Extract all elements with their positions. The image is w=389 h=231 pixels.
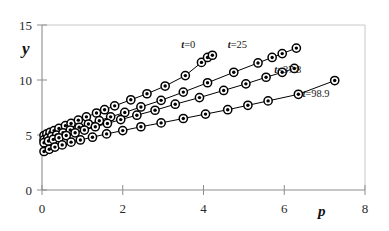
y-tick-label: 15 <box>19 18 32 33</box>
data-point-center-dot <box>244 82 247 85</box>
data-point-center-dot <box>159 121 162 124</box>
y-axis-title: y <box>20 39 30 58</box>
data-point-center-dot <box>182 90 185 93</box>
plot-axes <box>42 25 365 190</box>
data-series <box>40 44 301 144</box>
data-point-center-dot <box>200 61 203 64</box>
data-point-center-dot <box>139 105 142 108</box>
data-point-center-dot <box>85 115 88 118</box>
data-point-center-dot <box>246 104 249 107</box>
data-point-center-dot <box>87 122 90 125</box>
data-point-center-dot <box>60 143 63 146</box>
data-point-center-dot <box>135 114 138 117</box>
data-point-center-dot <box>184 74 187 77</box>
series-label: t=98.9 <box>302 88 329 99</box>
y-tick-label: 10 <box>19 73 32 88</box>
data-point-center-dot <box>206 81 209 84</box>
data-point-center-dot <box>163 84 166 87</box>
data-point-center-dot <box>69 122 72 125</box>
data-point-center-dot <box>129 98 132 101</box>
data-point-center-dot <box>121 129 124 132</box>
data-point-center-dot <box>94 125 97 128</box>
data-point-center-dot <box>297 93 300 96</box>
data-point-center-dot <box>222 89 225 92</box>
data-point-center-dot <box>65 134 68 137</box>
data-point-center-dot <box>103 108 106 111</box>
data-point-center-dot <box>153 109 156 112</box>
series-label-value: =0 <box>184 39 195 50</box>
series-label: t=37.8 <box>274 64 301 75</box>
series-label-value: =25 <box>231 39 247 50</box>
x-tick-label: 2 <box>120 201 127 216</box>
y-tick-label: 5 <box>26 128 33 143</box>
data-point-center-dot <box>198 96 201 99</box>
data-point-center-dot <box>145 92 148 95</box>
series-label: t=25 <box>228 39 247 50</box>
data-point-center-dot <box>333 79 336 82</box>
data-point-center-dot <box>77 118 80 121</box>
x-tick-label: 8 <box>362 201 369 216</box>
data-point-center-dot <box>270 56 273 59</box>
data-point-center-dot <box>83 128 86 131</box>
data-point-center-dot <box>211 54 214 57</box>
series-layer <box>40 44 339 156</box>
data-point-center-dot <box>95 111 98 114</box>
data-point-center-dot <box>91 136 94 139</box>
data-point-center-dot <box>204 112 207 115</box>
data-point-center-dot <box>98 119 101 122</box>
data-point-center-dot <box>266 99 269 102</box>
data-point-center-dot <box>226 108 229 111</box>
data-point-center-dot <box>139 125 142 128</box>
data-point-center-dot <box>232 71 235 74</box>
data-series <box>40 64 299 146</box>
data-point-center-dot <box>79 138 82 141</box>
data-point-center-dot <box>256 61 259 64</box>
data-point-center-dot <box>69 140 72 143</box>
x-axis-title: p <box>316 203 326 219</box>
x-tick-label: 0 <box>39 201 46 216</box>
series-label: t=0 <box>181 39 195 50</box>
data-point-center-dot <box>106 122 109 125</box>
data-point-center-dot <box>281 52 284 55</box>
data-point-center-dot <box>182 117 185 120</box>
data-point-center-dot <box>53 145 56 148</box>
x-tick-label: 4 <box>200 201 207 216</box>
series-label-value: =98.9 <box>305 88 329 99</box>
data-point-center-dot <box>109 115 112 118</box>
y-tick-label: 0 <box>26 183 33 198</box>
chart-figure: 051015 02468 y p t=0t=25t=37.8t=98.9 <box>0 0 389 231</box>
data-point-center-dot <box>57 136 60 139</box>
data-point-center-dot <box>159 99 162 102</box>
data-point-center-dot <box>123 111 126 114</box>
data-point-center-dot <box>113 104 116 107</box>
data-point-center-dot <box>119 118 122 121</box>
series-label-value: =37.8 <box>277 64 301 75</box>
data-point-center-dot <box>105 132 108 135</box>
plot-frame <box>42 25 365 190</box>
data-point-center-dot <box>174 103 177 106</box>
scatter-plot: 051015 02468 y p t=0t=25t=37.8t=98.9 <box>0 0 389 231</box>
x-tick-label: 6 <box>281 201 288 216</box>
data-point-center-dot <box>264 76 267 79</box>
data-point-center-dot <box>73 131 76 134</box>
series-annotations: t=0t=25t=37.8t=98.9 <box>181 39 329 99</box>
data-series <box>40 51 217 139</box>
data-point-center-dot <box>295 46 298 49</box>
